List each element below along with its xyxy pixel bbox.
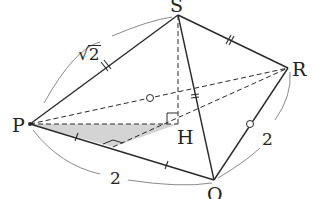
arc-sr-outer xyxy=(180,14,287,66)
edge-SR xyxy=(178,15,288,68)
tick-SH-1 xyxy=(191,94,199,95)
circle-mark-PR xyxy=(147,95,154,102)
length-label-SP: √2 xyxy=(78,45,101,63)
sqrt-radicand: 2 xyxy=(88,45,101,63)
label-R: R xyxy=(292,60,306,79)
label-H: H xyxy=(177,128,194,147)
length-label-QR: 2 xyxy=(262,131,273,148)
tick-SH-2 xyxy=(191,97,199,98)
arc-qr-length-upper xyxy=(275,72,290,120)
arc-pq-length-right xyxy=(128,180,212,185)
tetrahedron-diagram xyxy=(0,0,314,199)
label-Q: Q xyxy=(207,185,223,199)
circle-mark-QR xyxy=(247,121,254,128)
label-P: P xyxy=(12,116,25,135)
arc-qr-length xyxy=(218,148,260,178)
vertex-dot-P xyxy=(28,122,32,126)
label-S: S xyxy=(170,0,183,15)
length-label-PQ: 2 xyxy=(110,170,121,187)
